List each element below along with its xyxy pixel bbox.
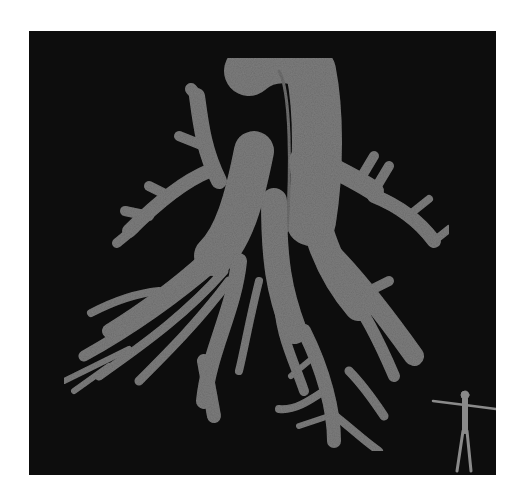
render-viewport[interactable] — [29, 31, 496, 475]
airway-tree-render — [29, 31, 496, 475]
